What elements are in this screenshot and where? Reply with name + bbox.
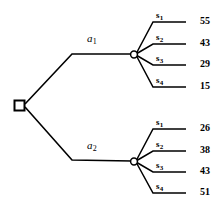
- outcome-edge-a1-s2[interactable]: [136, 44, 186, 54]
- branch-a2-edge[interactable]: [25, 107, 132, 161]
- branch-a1-edge[interactable]: [25, 54, 132, 104]
- outcome-edge-a2-s3[interactable]: [136, 162, 186, 172]
- chance-node-a2[interactable]: [131, 158, 138, 165]
- outcome-edge-a1-s3[interactable]: [136, 55, 186, 65]
- tree-edges-layer: [0, 0, 218, 202]
- chance-node-a1[interactable]: [131, 51, 138, 58]
- outcome-edge-a2-s2[interactable]: [136, 151, 186, 161]
- root-decision-node[interactable]: [15, 101, 25, 111]
- decision-tree-diagram: a1 a2 s1 55 s2 43 s3 29 s4 15 s1 26 s2 3…: [0, 0, 218, 202]
